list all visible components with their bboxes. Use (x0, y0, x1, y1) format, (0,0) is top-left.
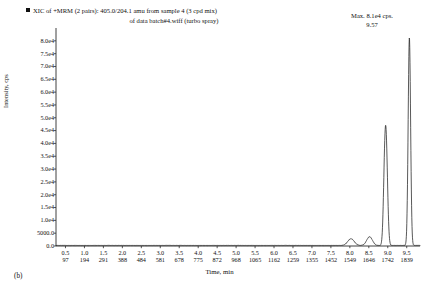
axis-lines (56, 28, 420, 246)
plot-area (0, 0, 425, 295)
chromatogram-trace (56, 38, 420, 246)
chromatogram-figure: XIC of +MRM (2 pairs): 405.0/204.1 amu f… (0, 0, 425, 295)
